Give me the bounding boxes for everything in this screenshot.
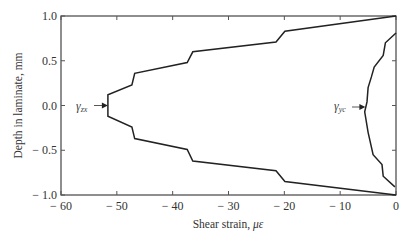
chart: − 60− 50− 40− 30− 20− 1001.00.50.0− 0.5−… [0,0,410,238]
y-tick-label: 0.0 [42,99,57,113]
y-tick-label: 1.0 [42,9,57,23]
y-tick-label: − 1.0 [32,188,57,202]
gamma-zx-label: γzx [76,99,88,114]
gamma-zx-arrow-head [102,103,108,109]
x-tick-label: 0 [393,199,399,213]
x-tick-label: − 20 [273,199,295,213]
gamma-yc-arrow-head [359,104,365,110]
gamma-yc-curve [365,33,396,187]
x-tick-label: − 40 [162,199,184,213]
gamma-yc-label: γyc [334,99,346,114]
x-tick-label: − 10 [329,199,351,213]
gamma-zx-curve [108,16,396,195]
y-axis-title: Depth in laminate, mm [12,52,25,158]
y-tick-label: − 0.5 [32,143,57,157]
x-tick-label: − 50 [106,199,128,213]
x-tick-label: − 30 [218,199,240,213]
x-axis-title: Shear strain, με [193,218,264,231]
y-tick-label: 0.5 [42,54,57,68]
